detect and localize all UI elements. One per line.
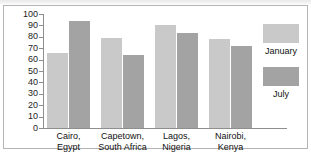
bar-january	[209, 39, 230, 128]
bar-group	[47, 14, 90, 128]
legend-label: July	[258, 89, 304, 100]
bar-july	[231, 46, 252, 128]
bar-group	[101, 14, 144, 128]
y-axis-tick-label: 100	[23, 10, 38, 19]
category-label-line: Nairobi,	[186, 131, 275, 142]
legend-item: July	[258, 67, 304, 100]
y-axis-tick-label: 80	[28, 32, 38, 41]
y-axis-tick-label: 30	[28, 89, 38, 98]
y-axis-tick-label: 40	[28, 78, 38, 87]
bar-group	[155, 14, 198, 128]
legend-label: January	[258, 46, 304, 57]
y-axis-tick-label: 10	[28, 112, 38, 121]
bar-january	[47, 53, 68, 128]
chart-legend: JanuaryJuly	[258, 24, 304, 110]
plot-area	[44, 14, 243, 128]
bar-group	[209, 14, 252, 128]
bar-july	[123, 55, 144, 128]
y-axis-tick-label: 20	[28, 101, 38, 110]
y-axis-tick-label: 70	[28, 44, 38, 53]
bar-july	[177, 33, 198, 128]
bar-january	[155, 25, 176, 128]
legend-swatch	[263, 67, 299, 86]
y-axis-labels: 1009080706050403020100	[0, 0, 38, 152]
chart-figure: 1009080706050403020100 Cairo,EgyptCapeto…	[0, 0, 311, 152]
category-label-line: Kenya	[186, 142, 275, 153]
y-axis-tick-label: 60	[28, 55, 38, 64]
legend-item: January	[258, 24, 304, 57]
y-axis-tick-label: 50	[28, 67, 38, 76]
legend-swatch	[263, 24, 299, 43]
x-axis-category-label: Nairobi,Kenya	[186, 131, 275, 152]
bar-january	[101, 38, 122, 128]
x-axis-line	[43, 128, 287, 129]
bar-july	[69, 21, 90, 128]
y-axis-tick-label: 90	[28, 21, 38, 30]
